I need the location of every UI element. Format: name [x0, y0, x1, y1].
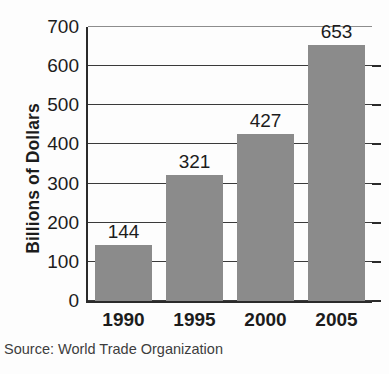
bar-group-1995: 3211995 — [159, 27, 230, 301]
x-tick-label-2000: 2000 — [230, 309, 301, 331]
bar-value-label-2000: 427 — [230, 110, 301, 132]
bar-group-1990: 1441990 — [88, 27, 159, 301]
y-tick-mark-100 — [372, 261, 381, 263]
y-tick-label-100: 100 — [47, 251, 79, 273]
y-tick-mark-400 — [372, 143, 381, 145]
x-tick-label-2005: 2005 — [301, 309, 372, 331]
bar-2005 — [308, 45, 365, 301]
bar-series: 1441990321199542720006532005 — [88, 27, 372, 301]
y-tick-label-500: 500 — [47, 94, 79, 116]
plot-area: 0100200300400500600700 14419903211995427… — [86, 27, 372, 303]
bar-1995 — [166, 175, 223, 301]
bar-value-label-1990: 144 — [88, 221, 159, 243]
y-tick-label-700: 700 — [47, 16, 79, 38]
y-tick-mark-600 — [372, 65, 381, 67]
y-tick-label-0: 0 — [68, 290, 79, 312]
bar-group-2000: 4272000 — [230, 27, 301, 301]
y-axis-title: Billions of Dollars — [23, 74, 44, 284]
y-tick-label-300: 300 — [47, 173, 79, 195]
y-tick-label-600: 600 — [47, 55, 79, 77]
chart-figure: Billions of Dollars 01002003004005006007… — [0, 0, 389, 374]
bar-2000 — [237, 134, 294, 301]
source-note: Source: World Trade Organization — [4, 341, 223, 357]
bar-1990 — [95, 245, 152, 301]
x-tick-label-1990: 1990 — [88, 309, 159, 331]
y-tick-mark-300 — [372, 183, 381, 185]
y-tick-label-200: 200 — [47, 212, 79, 234]
bar-group-2005: 6532005 — [301, 27, 372, 301]
bar-value-label-1995: 321 — [159, 151, 230, 173]
y-tick-mark-200 — [372, 222, 381, 224]
x-tick-label-1995: 1995 — [159, 309, 230, 331]
y-tick-mark-0 — [372, 300, 381, 302]
y-tick-label-400: 400 — [47, 133, 79, 155]
bar-value-label-2005: 653 — [301, 21, 372, 43]
y-tick-mark-500 — [372, 104, 381, 106]
